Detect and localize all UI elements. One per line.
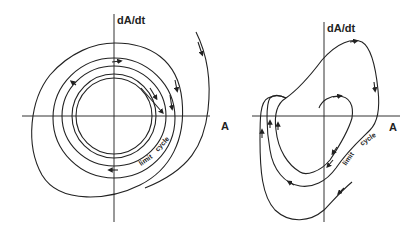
right-cycle-label: cycle xyxy=(359,131,378,148)
right-x-label: A xyxy=(389,121,397,133)
left-y-label: dA/dt xyxy=(117,14,145,26)
right-limit-label: limit xyxy=(341,150,355,166)
left-phase-plane: dA/dt limit cycle xyxy=(22,14,210,222)
right-limit-cycle xyxy=(267,41,379,187)
left-limit-label: limit xyxy=(138,152,154,166)
right-phase-plane: dA/dt A A limit cycle xyxy=(221,22,400,222)
right-y-label: dA/dt xyxy=(327,22,355,34)
left-x-label: A xyxy=(221,120,229,132)
left-incoming-trajectory xyxy=(145,32,209,188)
phase-diagrams: dA/dt limit cycle dA/dt A A limit cycle xyxy=(0,0,417,234)
right-outer-trajectory xyxy=(260,96,352,220)
